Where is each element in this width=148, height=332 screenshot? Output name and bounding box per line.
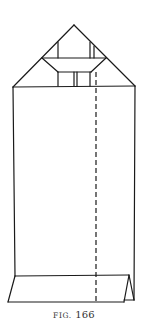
- solid-outline-lines: [8, 25, 135, 302]
- roof-right-edge-line: [74, 25, 135, 86]
- band-left-slant-line: [42, 58, 58, 72]
- band-right-slant-line: [91, 58, 106, 72]
- figure-caption: FIG. 166: [0, 309, 148, 320]
- body-top-line: [13, 86, 135, 87]
- body-right-line: [134, 86, 135, 300]
- base-top-line: [15, 275, 129, 276]
- roof-left-edge-line: [13, 25, 74, 87]
- folding-diagram: [0, 0, 148, 332]
- base-flap-right-line: [129, 275, 134, 300]
- base-flap-left-line: [124, 275, 129, 302]
- body-left-line: [13, 87, 15, 276]
- caption-prefix: FIG.: [53, 311, 72, 320]
- base-left-slant-line: [8, 276, 15, 302]
- caption-number: 166: [75, 309, 95, 320]
